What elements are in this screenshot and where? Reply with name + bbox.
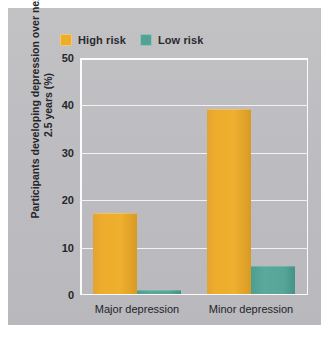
legend-swatch-icon [60,34,72,46]
gridline [80,200,308,201]
gridline [80,105,308,106]
legend-item-low-risk: Low risk [140,34,203,46]
bar-minor-depression-high-risk [207,109,251,294]
x-axis-tick-label: Major depression [95,303,179,315]
plot-area: 01020304050Major depressionMinor depress… [80,58,308,295]
chart-panel: High riskLow risk Participants developin… [8,8,321,325]
legend-item-high-risk: High risk [60,34,126,46]
gridline [80,153,308,154]
legend-swatch-icon [140,34,152,46]
bar-minor-depression-low-risk [251,266,295,294]
y-axis-tick-label: 50 [62,52,74,64]
plot-left-border [80,58,82,295]
chart-legend: High riskLow risk [60,30,203,50]
y-axis-tick-label: 0 [68,289,74,301]
y-axis-title-container: Participants developing depression over … [25,0,59,225]
plot-right-border [307,58,309,295]
legend-label: High risk [78,34,126,46]
y-axis-tick-label: 30 [62,147,74,159]
plot-top-border [80,58,308,60]
y-axis-tick-label: 40 [62,99,74,111]
bar-major-depression-high-risk [93,213,137,294]
y-axis-tick-label: 20 [62,194,74,206]
y-axis-tick-label: 10 [62,242,74,254]
chart-screenshot: High riskLow risk Participants developin… [0,0,329,345]
y-axis-title: Participants developing depression over … [29,0,55,225]
x-axis-tick-label: Minor depression [209,303,293,315]
bar-major-depression-low-risk [137,290,181,294]
legend-label: Low risk [158,34,203,46]
